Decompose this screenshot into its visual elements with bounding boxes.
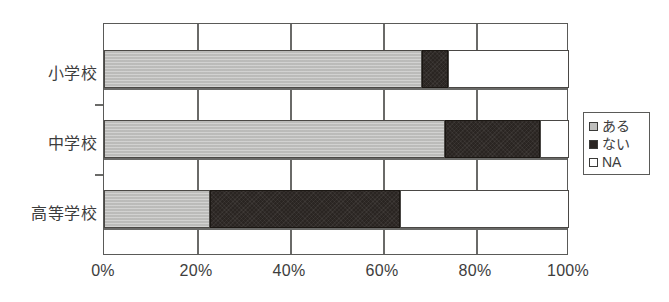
x-axis-label-100: 100% xyxy=(547,262,589,280)
legend-swatch-gray-icon xyxy=(589,122,598,131)
y-axis-tick-2 xyxy=(95,174,103,176)
y-axis-labels: 小学校 中学校 高等学校 xyxy=(0,0,97,302)
bar-segment-juniorhigh-na xyxy=(540,120,569,158)
y-axis-tick-1 xyxy=(95,104,103,106)
x-axis-label-60: 60% xyxy=(366,262,399,280)
bar-segment-juniorhigh-nai xyxy=(445,120,540,158)
bar-segment-elementary-nai xyxy=(422,50,448,88)
rowline-2 xyxy=(104,88,567,90)
rowline-6 xyxy=(104,228,567,230)
legend-swatch-dark-icon xyxy=(589,140,598,149)
bar-segment-highschool-na xyxy=(400,190,569,228)
y-axis-label-highschool: 高等学校 xyxy=(2,200,97,224)
bar-row-elementary xyxy=(104,50,567,88)
bar-segment-highschool-aru xyxy=(104,190,210,228)
y-axis-label-juniorhigh: 中学校 xyxy=(2,130,97,154)
legend-label-nai: ない xyxy=(602,137,630,151)
x-axis-label-80: 80% xyxy=(459,262,492,280)
legend-item-nai: ない xyxy=(589,135,649,153)
bar-segment-elementary-na xyxy=(448,50,569,88)
x-axis-label-20: 20% xyxy=(180,262,213,280)
stacked-bar-chart: 小学校 中学校 高等学校 xyxy=(0,0,669,302)
legend-item-aru: ある xyxy=(589,117,649,135)
rowline-4 xyxy=(104,158,567,160)
x-axis-label-40: 40% xyxy=(273,262,306,280)
legend-label-aru: ある xyxy=(602,119,630,133)
bar-segment-juniorhigh-aru xyxy=(104,120,445,158)
x-axis-label-0: 0% xyxy=(91,262,115,280)
bar-segment-highschool-nai xyxy=(210,190,400,228)
bar-row-highschool xyxy=(104,190,567,228)
bar-segment-elementary-aru xyxy=(104,50,422,88)
legend-item-na: NA xyxy=(589,153,649,171)
bar-row-juniorhigh xyxy=(104,120,567,158)
y-axis-label-elementary: 小学校 xyxy=(2,60,97,84)
chart-legend: ある ない NA xyxy=(583,112,650,175)
legend-label-na: NA xyxy=(602,155,621,169)
legend-swatch-white-icon xyxy=(589,158,598,167)
plot-area xyxy=(103,23,568,255)
